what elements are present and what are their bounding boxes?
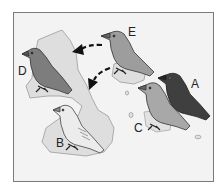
label-b: B xyxy=(56,137,64,149)
islet xyxy=(129,112,133,117)
islet xyxy=(195,135,201,139)
finch-diagram xyxy=(0,0,223,189)
label-e: E xyxy=(128,26,136,38)
arrow-e-to-b xyxy=(94,68,110,80)
label-d: D xyxy=(18,65,27,77)
arrow-e-to-d xyxy=(80,45,102,50)
islet xyxy=(125,91,128,95)
label-a: A xyxy=(191,78,199,90)
arrow-head-b xyxy=(88,78,98,90)
label-c: C xyxy=(134,122,143,134)
